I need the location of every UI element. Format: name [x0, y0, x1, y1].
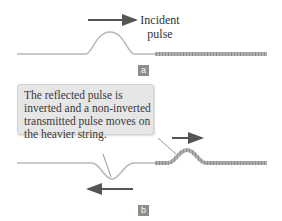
callout-box: The reflected pulse is inverted and a no… [17, 84, 154, 135]
callout-line: transmitted pulse moves on [24, 115, 147, 128]
light-string-a [17, 32, 155, 54]
callout-line: The reflected pulse is [24, 89, 147, 102]
panel-b-badge: b [138, 205, 149, 216]
panel-b [17, 138, 267, 189]
heavy-string-a [155, 52, 267, 56]
incident-label-line2: pulse [138, 27, 182, 41]
light-string-b [17, 163, 155, 179]
panel-a-badge: a [138, 65, 149, 76]
callout-line: inverted and a non-inverted [24, 102, 147, 115]
callout-pointer-transmitted [158, 138, 176, 154]
callout-line: the heavier string. [24, 128, 147, 141]
heavy-string-b [155, 150, 267, 163]
incident-pulse-label: Incident pulse [138, 13, 182, 41]
incident-label-line1: Incident [138, 13, 182, 27]
